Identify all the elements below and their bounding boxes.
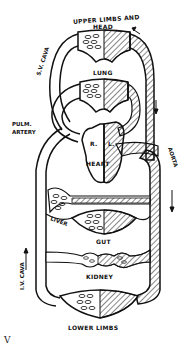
label-lung: LUNG: [93, 69, 113, 76]
label-aorta: AORTA: [167, 146, 179, 168]
label-liver: LIVER: [50, 215, 69, 227]
label-pulm: PULM.: [12, 121, 32, 127]
label-heart: HEART: [86, 160, 110, 167]
descending-aorta: [136, 150, 160, 304]
upper-limbs-capillary-bed: [78, 30, 130, 62]
label-kidney: KIDNEY: [86, 273, 113, 280]
label-sv-cava: S.V. CAVA: [35, 46, 50, 77]
arrow-up-icon: [24, 248, 28, 253]
superior-vena-cava: [50, 34, 78, 130]
label-iv-cava: I.V. CAVA: [19, 262, 25, 290]
caption-fragment: V: [3, 335, 11, 344]
label-gut: GUT: [96, 238, 111, 245]
lung-capillary-bed: [80, 79, 128, 112]
label-artery: ARTERY: [12, 129, 37, 135]
label-right-ventricle: R.: [90, 140, 98, 147]
label-left-ventricle: L.: [108, 140, 115, 147]
label-head: HEAD: [93, 23, 113, 30]
kidney-capillary-bed: [46, 250, 150, 268]
circulation-diagram: UPPER LIMBS AND HEAD S.V. CAVA LUNG PULM…: [0, 0, 184, 344]
liver-gut-capillary-bed: [46, 188, 150, 234]
pulmonary-artery: [52, 84, 80, 142]
arrow-down-icon: [170, 207, 174, 212]
lower-limbs-capillary-bed: [60, 290, 138, 318]
label-lower-limbs: LOWER LIMBS: [68, 324, 118, 331]
